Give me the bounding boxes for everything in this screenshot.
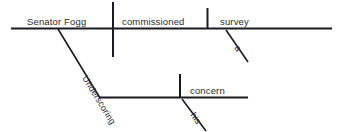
word-participle: Underscoring [80, 74, 117, 126]
sentence-diagram: Senator Fogg commissioned survey a Under… [0, 0, 343, 132]
diagram-svg: Senator Fogg commissioned survey a Under… [0, 0, 343, 132]
word-subject: Senator Fogg [27, 16, 86, 27]
word-verb: commissioned [122, 16, 185, 27]
word-participle-object: concern [190, 85, 225, 96]
word-direct-object: survey [220, 16, 249, 27]
